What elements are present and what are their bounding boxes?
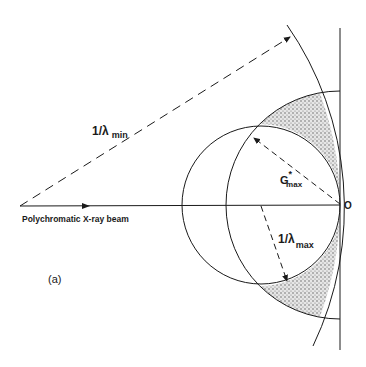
- ewald-construction-diagram: 1/λmin G*max 1/λmax O Polychromatic X-ra…: [0, 0, 366, 367]
- beam-label: Polychromatic X-ray beam: [22, 214, 129, 224]
- lambda-max-label: 1/λmax: [278, 232, 314, 250]
- beam-line: [20, 205, 340, 206]
- origin-label: O: [344, 200, 352, 211]
- beam-arrow-icon: [82, 203, 90, 209]
- lambda-min-radius: [20, 37, 290, 206]
- panel-label: (a): [48, 273, 61, 285]
- lambda-min-label: 1/λmin: [92, 124, 128, 140]
- gmax-label: G*max: [280, 169, 303, 189]
